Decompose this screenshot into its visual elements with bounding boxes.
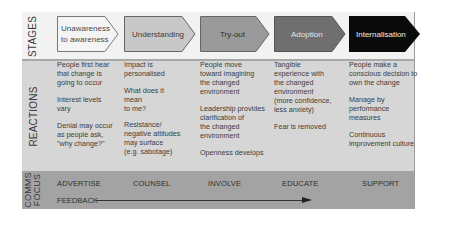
reactions-column-understanding: Impact is personalised What does it mean… [124, 60, 196, 164]
reaction-text: Fear is removed [274, 122, 346, 131]
reactions-row-label: REACTIONS [22, 61, 44, 171]
comms-focus-counsel: COUNSEL [133, 179, 170, 188]
reaction-text: Tangible experience with the changed env… [274, 60, 346, 114]
reaction-text: Manage by performance measures [349, 95, 419, 122]
reaction-text: Openness develops [200, 148, 272, 157]
stage-arrow-try-out: Try-out [200, 16, 270, 52]
focus-label-text: FOCUS [33, 172, 42, 208]
comms-focus-involve: INVOLVE [208, 179, 241, 188]
comms-focus-educate: EDUCATE [282, 179, 318, 188]
reaction-text: People first hear that change is going t… [57, 60, 125, 87]
stage-arrow-understanding: Understanding [124, 16, 196, 52]
stage-label: Understanding [124, 16, 184, 52]
reactions-column-internalisation: People make a conscious decision to own … [349, 60, 419, 156]
comms-focus-advertise: ADVERTISE [57, 179, 101, 188]
reaction-text: People move toward imagining the changed… [200, 60, 272, 96]
stage-label: Unawareness to awareness [57, 16, 110, 52]
reaction-text: Impact is personalised [124, 60, 196, 78]
feedback-arrow-head-icon [302, 197, 312, 203]
reactions-column-try-out: People move toward imagining the changed… [200, 60, 272, 165]
reaction-text: Leadership provides clarification of the… [200, 104, 272, 140]
stage-arrow-internalisation: Internalisation [349, 16, 421, 52]
reaction-text: Resistance/ negative attitudes may surfa… [124, 120, 196, 156]
reaction-text: Continuous improvement culture [349, 130, 419, 148]
feedback-label: FEEDBACK [57, 196, 98, 205]
reaction-text: People make a conscious decision to own … [349, 60, 419, 87]
reactions-label-text: REACTIONS [28, 86, 39, 146]
comms-focus-row-label: COMMS FOCUS [22, 171, 44, 209]
stage-label: Adoption [274, 16, 323, 52]
reactions-column-unawareness: People first hear that change is going t… [57, 60, 125, 156]
reaction-text: Denial may occur as people ask, "why cha… [57, 121, 125, 148]
stages-row-label: STAGES [22, 12, 44, 61]
feedback-arrow-line [96, 200, 306, 201]
stage-arrow-unawareness: Unawareness to awareness [57, 16, 119, 52]
stage-label: Try-out [200, 16, 245, 52]
stage-arrow-adoption: Adoption [274, 16, 346, 52]
reaction-text: What does it mean to me? [124, 86, 196, 113]
comms-focus-support: SUPPORT [362, 179, 399, 188]
reaction-text: Interest levels vary [57, 95, 125, 113]
stage-label: Internalisation [349, 16, 406, 52]
stages-label-text: STAGES [28, 16, 39, 57]
reactions-column-adoption: Tangible experience with the changed env… [274, 60, 346, 139]
